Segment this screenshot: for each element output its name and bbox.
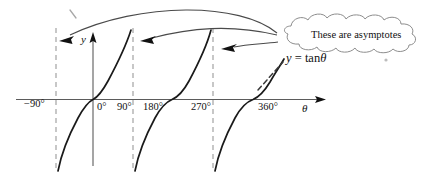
theta-axis-label: θ [302, 102, 308, 114]
callout-arrow-to-90 [152, 28, 277, 38]
tangent-branch-3 [215, 59, 284, 171]
callout-arrow-to-minus90 [70, 10, 277, 35]
axes-group [16, 32, 326, 166]
tangent-graph-figure: −90° 0° 90° 180° 270° 360° y θ y = tanθ [0, 0, 427, 176]
curve-label-theta: θ [320, 51, 326, 65]
y-axis-label: y [80, 33, 86, 45]
callout-arrowhead-90 [140, 36, 156, 44]
asymptote-callout-cloud: These are asymptotes [284, 14, 415, 53]
curve-label-tan: tan [305, 51, 321, 65]
callout-arrowhead-minus90 [59, 36, 74, 44]
curve-label-text: y = tanθ [284, 51, 326, 65]
cloud-callout-text: These are asymptotes [311, 29, 401, 40]
tick-label-180: 180° [143, 101, 163, 112]
tick-label-0: 0° [97, 101, 106, 112]
tick-label-90: 90° [117, 101, 132, 112]
stray-dot-right [384, 58, 387, 61]
tangent-curves [58, 30, 284, 171]
callout-arrow-to-270 [234, 42, 278, 47]
tick-label-360: 360° [258, 101, 278, 112]
tick-label-minus90: −90° [24, 98, 45, 109]
callout-arrows [59, 10, 278, 52]
tangent-graph-svg: −90° 0° 90° 180° 270° 360° y θ y = tanθ [0, 0, 427, 176]
callout-arrowhead-270 [221, 44, 237, 52]
stray-mark-top-left [70, 10, 76, 18]
curve-label-equals: = [292, 51, 305, 65]
tick-label-270: 270° [191, 101, 211, 112]
